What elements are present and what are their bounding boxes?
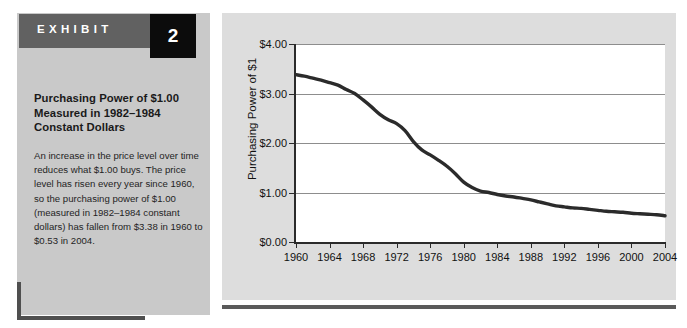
y-tick-mark: [289, 143, 296, 144]
exhibit-label: EXHIBIT: [37, 23, 112, 35]
y-tick-label: $1.00: [259, 187, 287, 199]
x-tick-label: 1972: [384, 251, 408, 263]
x-tick-label: 1996: [586, 251, 610, 263]
x-tick-label: 1988: [519, 251, 543, 263]
x-tick-label: 1980: [451, 251, 475, 263]
exhibit-body-text: An increase in the price level over time…: [34, 149, 206, 248]
x-tick-label: 2004: [653, 251, 677, 263]
x-tick-mark: [363, 242, 364, 248]
x-tick-label: 1960: [284, 251, 308, 263]
x-tick-label: 1992: [552, 251, 576, 263]
x-tick-label: 1984: [485, 251, 509, 263]
x-tick-mark: [430, 242, 431, 248]
y-tick-label: $4.00: [259, 38, 287, 50]
x-tick-label: 1964: [317, 251, 341, 263]
x-tick-label: 1976: [418, 251, 442, 263]
x-tick-mark: [330, 242, 331, 248]
x-tick-label: 2000: [619, 251, 643, 263]
x-tick-mark: [497, 242, 498, 248]
x-tick-mark: [397, 242, 398, 248]
x-tick-mark: [598, 242, 599, 248]
x-tick-mark: [665, 242, 666, 248]
x-tick-mark: [631, 242, 632, 248]
exhibit-rule-vertical: [17, 282, 21, 320]
exhibit-panel: EXHIBIT 2 Purchasing Power of $1.00 Meas…: [17, 13, 210, 315]
x-tick-mark: [296, 242, 297, 248]
exhibit-title: Purchasing Power of $1.00 Measured in 19…: [34, 91, 202, 135]
chart-panel: Purchasing Power of $1 $0.00$1.00$2.00$3…: [222, 13, 676, 300]
y-tick-mark: [289, 94, 296, 95]
y-axis-title: Purchasing Power of $1: [246, 34, 258, 204]
series-line-chart: [296, 44, 665, 242]
y-tick-mark: [289, 193, 296, 194]
y-tick-label: $2.00: [259, 137, 287, 149]
chart-rule: [222, 305, 676, 309]
x-tick-mark: [531, 242, 532, 248]
y-tick-label: $0.00: [259, 236, 287, 248]
x-tick-mark: [564, 242, 565, 248]
exhibit-number: 2: [150, 25, 196, 47]
x-tick-label: 1968: [351, 251, 375, 263]
plot-area: $0.00$1.00$2.00$3.00$4.00 19601964196819…: [294, 44, 665, 244]
y-tick-label: $3.00: [259, 88, 287, 100]
exhibit-number-box: 2: [150, 14, 196, 58]
y-tick-mark: [289, 242, 296, 243]
series-path-purchasing-power: [296, 75, 665, 216]
exhibit-rule-horizontal: [17, 316, 145, 320]
x-tick-mark: [464, 242, 465, 248]
y-tick-mark: [289, 44, 296, 45]
